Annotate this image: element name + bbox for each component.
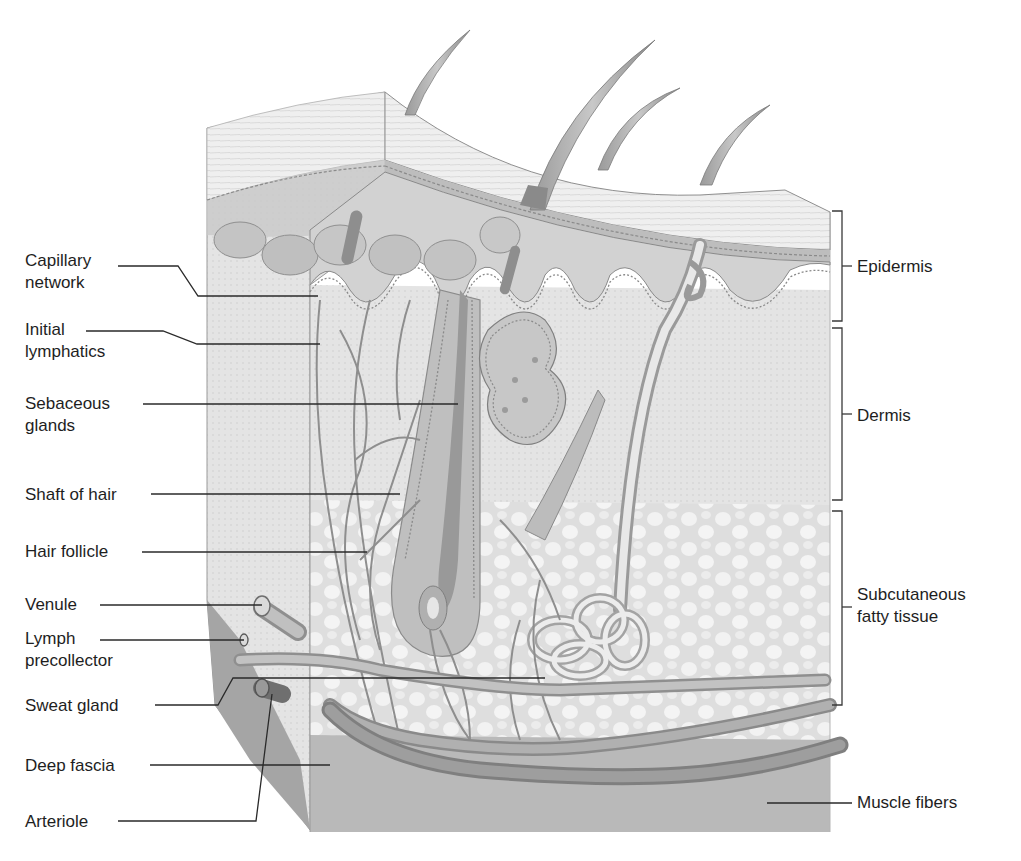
label-hair-follicle: Hair follicle: [25, 541, 108, 563]
label-sebaceous-glands: Sebaceous glands: [25, 393, 110, 437]
layer-brackets: [832, 211, 852, 705]
label-subcutaneous-fatty-tissue: Subcutaneous fatty tissue: [857, 584, 966, 628]
skin-illustration: [0, 0, 1021, 861]
dermis-bracket: [832, 328, 842, 500]
epidermis-bracket: [832, 211, 842, 321]
label-sweat-gland: Sweat gland: [25, 695, 119, 717]
label-dermis: Dermis: [857, 405, 911, 427]
subcutaneous-bracket: [832, 511, 842, 705]
label-muscle-fibers: Muscle fibers: [857, 792, 957, 814]
label-lymph-precollector: Lymph precollector: [25, 628, 113, 672]
label-shaft-of-hair: Shaft of hair: [25, 484, 117, 506]
label-venule: Venule: [25, 594, 77, 616]
label-arteriole: Arteriole: [25, 811, 88, 833]
skin-cross-section-diagram: Capillary network Initial lymphatics Seb…: [0, 0, 1021, 861]
label-epidermis: Epidermis: [857, 256, 933, 278]
label-deep-fascia: Deep fascia: [25, 755, 115, 777]
label-initial-lymphatics: Initial lymphatics: [25, 319, 105, 363]
label-capillary-network: Capillary network: [25, 250, 91, 294]
